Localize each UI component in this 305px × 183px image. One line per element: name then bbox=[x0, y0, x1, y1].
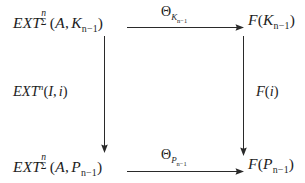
arrow-top-horizontal bbox=[127, 24, 244, 31]
node-bottom-left-arg1: A bbox=[55, 158, 65, 175]
arrow-top-label-subscript-sub: n−1 bbox=[177, 17, 187, 24]
arrow-bottom-label: ΘPn−1 bbox=[161, 148, 187, 164]
node-top-left-arg1: A bbox=[55, 14, 65, 31]
arrow-left-label-comma: , bbox=[53, 83, 58, 99]
node-bottom-left-paren-close: ) bbox=[97, 158, 102, 175]
node-bottom-left-scripts: nΣ bbox=[41, 156, 50, 172]
node-top-right-arg-subscript: n−1 bbox=[274, 20, 290, 31]
node-bottom-left-arg2-base: P bbox=[71, 158, 81, 175]
arrow-right-vertical bbox=[240, 36, 247, 156]
node-bottom-left-subscript: Σ bbox=[41, 161, 47, 171]
node-top-left-scripts: nΣ bbox=[41, 12, 50, 28]
arrow-left-label-base: EXT bbox=[13, 83, 39, 99]
arrow-right-label-paren-close: ) bbox=[274, 83, 279, 99]
node-top-left-base: EXT bbox=[13, 14, 41, 31]
node-bottom-right-arg-subscript: n−1 bbox=[273, 164, 289, 175]
arrow-left-label: EXTn(I, i) bbox=[13, 84, 68, 99]
node-bottom-right-base: F bbox=[248, 155, 258, 172]
arrow-bottom-horizontal bbox=[127, 168, 244, 175]
node-bottom-left-comma: , bbox=[65, 158, 70, 175]
node-top-right: F(Kn−1) bbox=[248, 12, 295, 28]
arrow-left-label-paren-close: ) bbox=[63, 83, 68, 99]
node-top-right-base: F bbox=[248, 11, 258, 28]
arrow-bottom-label-base: Θ bbox=[161, 147, 171, 162]
node-top-left-arg2-subscript: n−1 bbox=[82, 23, 98, 34]
node-top-left-arg2-base: K bbox=[71, 14, 82, 31]
arrow-right-label: F(i) bbox=[256, 84, 279, 99]
node-bottom-right: F(Pn−1) bbox=[248, 156, 294, 172]
arrow-left-vertical bbox=[101, 36, 108, 153]
node-top-left-comma: , bbox=[65, 14, 70, 31]
node-top-left-paren-close: ) bbox=[98, 14, 103, 31]
commutative-diagram: EXTnΣ(A, Kn−1) F(Kn−1) EXTnΣ(A, Pn−1) F(… bbox=[0, 0, 305, 183]
arrow-top-label-base: Θ bbox=[161, 4, 171, 19]
node-bottom-left-base: EXT bbox=[13, 158, 41, 175]
arrow-top-label-subscript: Kn−1 bbox=[171, 12, 187, 22]
node-bottom-right-paren-close: ) bbox=[289, 155, 294, 172]
node-bottom-right-arg-base: P bbox=[263, 155, 273, 172]
node-top-left: EXTnΣ(A, Kn−1) bbox=[13, 12, 103, 30]
arrow-bottom-label-subscript-sub: n−1 bbox=[177, 160, 187, 167]
node-bottom-left: EXTnΣ(A, Pn−1) bbox=[13, 156, 102, 174]
node-top-left-subscript: Σ bbox=[41, 17, 47, 27]
node-top-right-arg-base: K bbox=[263, 11, 274, 28]
node-bottom-left-arg2-subscript: n−1 bbox=[81, 167, 97, 178]
node-top-right-paren-close: ) bbox=[290, 11, 295, 28]
arrow-top-label: ΘKn−1 bbox=[161, 5, 187, 21]
arrow-right-label-base: F bbox=[256, 83, 265, 99]
arrow-bottom-label-subscript: Pn−1 bbox=[171, 155, 187, 165]
